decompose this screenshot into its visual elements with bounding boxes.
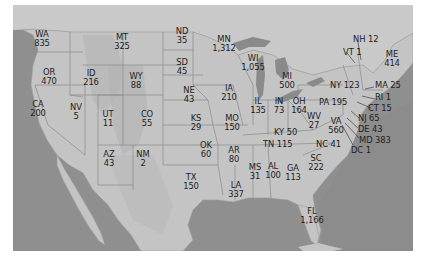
state-label-mi: MI500: [279, 72, 295, 90]
state-value: 210: [221, 93, 237, 102]
state-value: 150: [224, 123, 240, 132]
state-value: 216: [83, 78, 99, 87]
state-abbr: NH: [353, 34, 365, 44]
state-label-mt: MT325: [114, 33, 130, 51]
state-value: 43: [103, 159, 114, 168]
state-abbr: CT: [368, 103, 379, 113]
state-value: 383: [375, 135, 391, 145]
state-value: 100: [265, 171, 281, 180]
state-label-mo: MO150: [224, 114, 240, 132]
state-abbr: KY: [274, 127, 284, 137]
state-label-al: AL100: [265, 162, 281, 180]
state-label-nc: NC 41: [316, 140, 341, 149]
state-value: 195: [332, 97, 348, 107]
state-label-wa: WA835: [34, 30, 50, 48]
state-label-ks: KS29: [191, 114, 202, 132]
state-abbr: NJ: [358, 113, 367, 123]
state-label-nv: NV5: [70, 103, 82, 121]
state-value: 560: [328, 126, 344, 135]
state-abbr: PA: [319, 97, 329, 107]
state-label-ky: KY 50: [274, 128, 297, 137]
state-value: 1: [366, 145, 371, 155]
state-value: 115: [277, 139, 293, 149]
state-abbr: MD: [359, 135, 372, 145]
state-label-wi: WI1,055: [241, 54, 264, 72]
state-value: 5: [70, 112, 82, 121]
state-label-ut: UT11: [102, 110, 113, 128]
state-value: 325: [114, 42, 130, 51]
state-label-ct: CT 15: [368, 104, 392, 113]
state-label-wy: WY88: [129, 72, 142, 90]
state-label-ia: IA210: [221, 84, 237, 102]
state-label-ms: MS31: [249, 163, 261, 181]
state-label-wv: WV27: [307, 112, 321, 130]
state-value: 15: [381, 103, 391, 113]
state-label-pa: PA 195: [319, 98, 347, 107]
state-value: 222: [308, 163, 324, 172]
state-value: 60: [200, 150, 212, 159]
state-value: 135: [250, 106, 266, 115]
state-label-il: IL135: [250, 97, 266, 115]
state-label-tx: TX150: [183, 173, 199, 191]
state-abbr: DE: [358, 124, 370, 134]
state-abbr: VT: [343, 47, 354, 57]
state-value: 1,055: [241, 63, 264, 72]
state-value: 45: [176, 67, 188, 76]
state-value: 123: [344, 80, 360, 90]
state-value: 43: [183, 95, 194, 104]
state-label-sd: SD45: [176, 58, 188, 76]
state-label-ar: AR80: [228, 146, 239, 164]
state-value: 65: [369, 113, 379, 123]
state-label-nh: NH 12: [353, 35, 378, 44]
state-label-co: CO55: [141, 110, 153, 128]
state-abbr: NY: [330, 80, 341, 90]
state-value: 73: [274, 106, 284, 115]
state-value: 164: [291, 106, 307, 115]
state-label-id: ID216: [83, 69, 99, 87]
state-value: 12: [368, 34, 378, 44]
state-label-az: AZ43: [103, 150, 114, 168]
state-label-md: MD 383: [359, 136, 391, 145]
state-abbr: DC: [351, 145, 363, 155]
state-label-vt: VT 1: [343, 48, 361, 57]
state-label-va: VA560: [328, 117, 344, 135]
state-label-nm: NM2: [136, 150, 149, 168]
state-value: 29: [191, 123, 202, 132]
state-value: 150: [183, 182, 199, 191]
state-value: 1: [356, 47, 361, 57]
state-label-ne: NE43: [183, 86, 194, 104]
state-value: 1: [386, 92, 391, 102]
state-label-de: DE 43: [358, 125, 383, 134]
state-value: 25: [390, 80, 400, 90]
state-label-ny: NY 123: [330, 81, 359, 90]
state-value: 35: [176, 36, 189, 45]
state-label-fl: FL1,166: [300, 207, 323, 225]
state-label-ma: MA 25: [375, 81, 401, 90]
state-value: 31: [249, 172, 261, 181]
state-value: 88: [129, 81, 142, 90]
state-value: 414: [384, 59, 400, 68]
state-abbr: RI: [375, 92, 383, 102]
state-label-ga: GA113: [285, 164, 301, 182]
state-value: 1,166: [300, 216, 323, 225]
state-label-ok: OK60: [200, 141, 212, 159]
state-value: 1,312: [212, 44, 235, 53]
state-label-sc: SC222: [308, 154, 324, 172]
state-value: 113: [285, 173, 301, 182]
state-label-la: LA337: [228, 181, 244, 199]
us-map: WA835 OR470 CA200 ID216 NV5 MT325 WY88 U…: [13, 5, 413, 251]
state-value: 2: [136, 159, 149, 168]
state-value: 470: [41, 77, 57, 86]
state-value: 27: [307, 121, 321, 130]
state-value: 41: [330, 139, 340, 149]
state-label-ri: RI 1: [375, 93, 391, 102]
state-label-tn: TN 115: [263, 140, 292, 149]
state-value: 11: [102, 119, 113, 128]
state-abbr: MA: [375, 80, 388, 90]
state-abbr: TN: [263, 139, 274, 149]
state-value: 200: [30, 109, 46, 118]
state-label-or: OR470: [41, 68, 57, 86]
state-value: 80: [228, 155, 239, 164]
state-label-me: ME414: [384, 50, 400, 68]
state-value: 50: [287, 127, 297, 137]
